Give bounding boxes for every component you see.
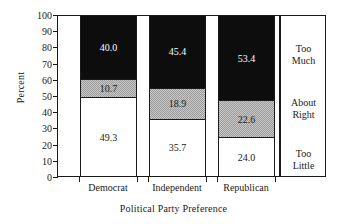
y-tick-label-60: 60 (26, 74, 52, 85)
y-tick-mark-0 (53, 177, 58, 178)
segment-value-label: 35.7 (169, 142, 187, 153)
segment-democrat-too-little: 49.3 (81, 98, 136, 176)
x-tick-label-independent: Independent (152, 182, 201, 194)
bar-republican: 53.4 22.6 24.0 (218, 16, 275, 176)
segment-democrat-about-right: 10.7 (81, 80, 136, 98)
x-tick-label-republican: Republican (223, 182, 269, 194)
segment-value-label: 53.4 (238, 53, 256, 64)
y-tick-label-50: 50 (26, 91, 52, 102)
segment-value-label: 24.0 (238, 152, 256, 163)
y-tick-label-10: 10 (26, 155, 52, 166)
segment-democrat-too-much: 40.0 (81, 16, 136, 80)
segment-independent-about-right: 18.9 (150, 89, 205, 120)
x-tick-mark-1 (137, 177, 138, 182)
segment-value-label: 18.9 (169, 98, 187, 109)
legend-label-line2: Much (280, 54, 327, 66)
legend-entry-too-little: Too Little (280, 148, 327, 171)
y-tick-label-100: 100 (26, 10, 52, 21)
x-tick-mark-0 (79, 177, 80, 182)
x-tick-mark-4 (217, 177, 218, 182)
segment-republican-too-little: 24.0 (219, 138, 274, 176)
y-tick-label-90: 90 (26, 26, 52, 37)
y-tick-label-20: 20 (26, 139, 52, 150)
bar-democrat: 40.0 10.7 49.3 (80, 16, 137, 176)
segment-value-label: 10.7 (100, 83, 118, 94)
bars-area: 40.0 10.7 49.3 45.4 18.9 35.7 (58, 16, 279, 176)
y-tick-label-0: 0 (26, 172, 52, 183)
x-tick-mark-2 (148, 177, 149, 182)
legend-label-line1: Too (280, 148, 327, 160)
y-tick-label-80: 80 (26, 42, 52, 53)
legend-label-line1: About (280, 97, 327, 109)
segment-value-label: 49.3 (100, 132, 118, 143)
segment-value-label: 45.4 (169, 46, 187, 57)
x-axis-title: Political Party Preference (0, 203, 347, 214)
segment-republican-about-right: 22.6 (219, 101, 274, 138)
x-tick-mark-3 (206, 177, 207, 182)
legend-label-line2: Little (280, 159, 327, 171)
y-axis-title: Percent (15, 50, 26, 126)
y-tick-label-70: 70 (26, 58, 52, 69)
legend-label-line1: Too (280, 43, 327, 55)
plot-area: 40.0 10.7 49.3 45.4 18.9 35.7 (57, 15, 326, 177)
x-tick-label-democrat: Democrat (88, 182, 127, 194)
segment-value-label: 22.6 (238, 114, 256, 125)
stacked-bar-chart: Percent 100 90 80 70 60 50 40 30 20 10 0… (0, 0, 347, 224)
y-tick-label-40: 40 (26, 107, 52, 118)
segment-independent-too-much: 45.4 (150, 16, 205, 89)
legend-entry-too-much: Too Much (280, 43, 327, 66)
y-tick-label-30: 30 (26, 123, 52, 134)
y-axis-tick-labels: 100 90 80 70 60 50 40 30 20 10 0 (26, 10, 52, 177)
legend: Too Much About Right Too Little (280, 16, 327, 176)
legend-entry-about-right: About Right (280, 97, 327, 120)
segment-republican-too-much: 53.4 (219, 16, 274, 101)
x-tick-mark-5 (275, 177, 276, 182)
legend-label-line2: Right (280, 108, 327, 120)
segment-independent-too-little: 35.7 (150, 120, 205, 176)
bar-independent: 45.4 18.9 35.7 (149, 16, 206, 176)
segment-value-label: 40.0 (100, 42, 118, 53)
